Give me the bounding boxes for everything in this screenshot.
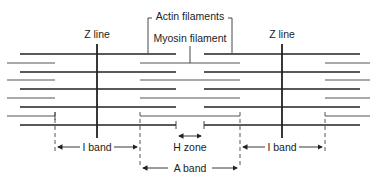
sarcomere-diagram: Z line Z line Actin filaments Myosin fil… [0,0,381,180]
actin-filaments [20,54,360,125]
band-boundaries [55,112,325,168]
end-ticks [55,112,204,129]
i-band-right-label: I band [267,141,296,153]
h-zone-label: H zone [173,141,206,153]
z-lines [97,44,282,138]
a-band-label: A band [174,162,207,174]
z-line-right-label: Z line [269,28,295,40]
i-band-left-label: I band [82,141,111,153]
myosin-label: Myosin filament [154,32,227,44]
actin-label: Actin filaments [156,10,224,22]
z-line-left-label: Z line [84,28,110,40]
